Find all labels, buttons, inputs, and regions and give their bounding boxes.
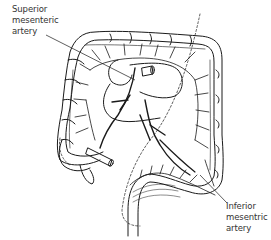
- superior-mesenteric-artery-label: Superior mesenteric artery: [12, 4, 59, 37]
- superior-mesenteric-artery: [100, 68, 190, 175]
- colon-outline: [57, 31, 223, 236]
- cecum-appendix: [59, 140, 114, 184]
- small-intestine-loops: [104, 60, 183, 122]
- label-line: mesentric: [226, 212, 268, 223]
- inferior-mesenteric-region: [130, 140, 215, 202]
- inferior-leader-line: [200, 175, 227, 203]
- label-line: mesenteric: [12, 15, 59, 26]
- label-line: Inferior: [226, 201, 268, 212]
- label-line: Superior: [12, 4, 59, 15]
- label-line: artery: [12, 26, 59, 37]
- inferior-mesenteric-artery-label: Inferior mesentric artery: [226, 201, 268, 234]
- label-line: artery: [226, 223, 268, 234]
